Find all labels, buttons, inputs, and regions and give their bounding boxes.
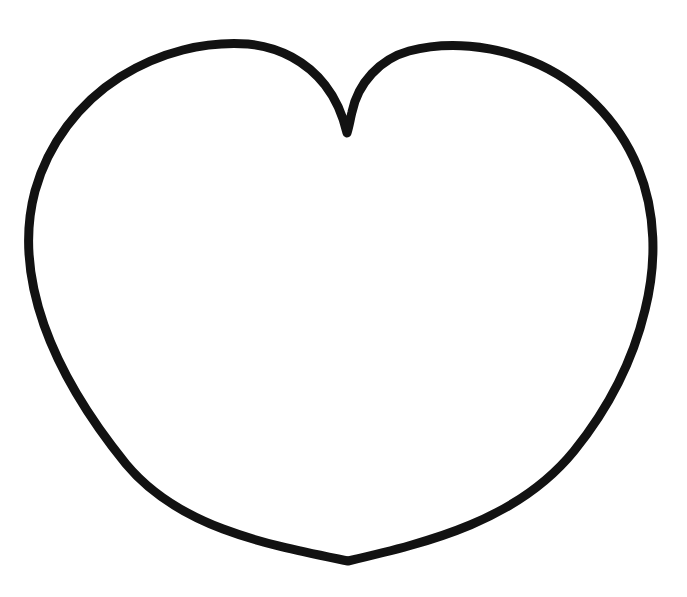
image-canvas: [0, 0, 687, 597]
heart-illustration: [0, 0, 687, 597]
